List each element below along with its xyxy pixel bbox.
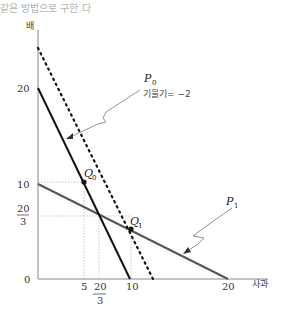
p0-label: P xyxy=(143,72,152,85)
y-tick-20-3-den: 3 xyxy=(20,216,26,227)
p0-slope-label: 기울기= −2 xyxy=(143,89,191,99)
p0-subscript: 0 xyxy=(152,79,156,87)
p1-subscript: 1 xyxy=(234,202,238,210)
guide-lines xyxy=(38,182,131,279)
p1-callout-arrow xyxy=(183,208,232,254)
y-tick-20-3-num: 20 xyxy=(17,203,30,214)
x-tick-20-3-den: 3 xyxy=(97,295,103,306)
q0-subscript: 0 xyxy=(92,174,96,182)
q0-point xyxy=(81,179,86,184)
y-tick-20: 20 xyxy=(17,83,30,94)
x-tick-5: 5 xyxy=(81,281,87,292)
origin-label: 0 xyxy=(24,274,30,285)
x-axis-label: 사과 xyxy=(252,279,268,289)
x-tick-20: 20 xyxy=(222,281,235,292)
p0-callout-arrow xyxy=(66,90,140,139)
p1-budget-line xyxy=(38,184,228,279)
y-tick-10: 10 xyxy=(17,179,30,190)
p1-label: P xyxy=(225,195,234,208)
compensated-budget-line xyxy=(38,48,153,279)
y-axis-label: 배 xyxy=(26,21,34,31)
x-tick-10: 10 xyxy=(126,281,139,292)
x-tick-20-3-num: 20 xyxy=(94,281,107,292)
q1-subscript: 1 xyxy=(138,222,142,230)
diagram: 배 사과 0 20 10 20 3 5 20 3 10 20 P 0 기울기= … xyxy=(0,0,285,327)
